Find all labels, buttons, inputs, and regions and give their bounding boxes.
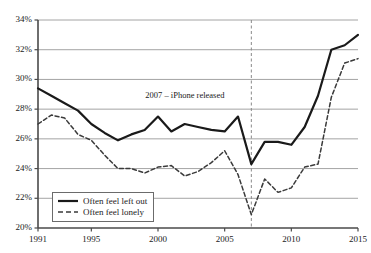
x-axis-tick-label: 2000 <box>138 234 178 244</box>
y-axis-tick-label: 20% <box>16 222 33 232</box>
x-axis-tick-label: 2015 <box>338 234 371 244</box>
x-axis-tick-label: 2005 <box>205 234 245 244</box>
legend-swatch-dashed-line-icon <box>57 208 79 216</box>
y-axis-tick-label: 34% <box>16 14 33 24</box>
x-axis-tick-label: 2010 <box>271 234 311 244</box>
x-axis-tick-label: 1995 <box>71 234 111 244</box>
annotation-label-iphone-released: 2007 – iPhone released <box>145 90 224 100</box>
legend-swatch-solid-line-icon <box>57 197 79 205</box>
legend-item: Often feel left out <box>57 196 147 207</box>
legend-label-often-feel-left-out: Often feel left out <box>83 196 147 206</box>
y-axis-tick-label: 22% <box>16 192 33 202</box>
x-axis-tick-label: 1991 <box>18 234 58 244</box>
y-axis-tick-label: 30% <box>16 73 33 83</box>
chart-legend: Often feel left out Often feel lonely <box>52 192 154 222</box>
legend-label-often-feel-lonely: Often feel lonely <box>83 207 144 217</box>
gridlines <box>38 20 358 198</box>
data-series <box>38 35 358 215</box>
legend-item: Often feel lonely <box>57 207 147 218</box>
y-axis-tick-label: 28% <box>16 103 33 113</box>
chart-figure: 20%22%24%26%28%30%32%34% 199119952000200… <box>0 0 371 253</box>
y-axis-tick-label: 32% <box>16 44 33 54</box>
y-axis-tick-label: 24% <box>16 163 33 173</box>
y-axis-tick-label: 26% <box>16 133 33 143</box>
